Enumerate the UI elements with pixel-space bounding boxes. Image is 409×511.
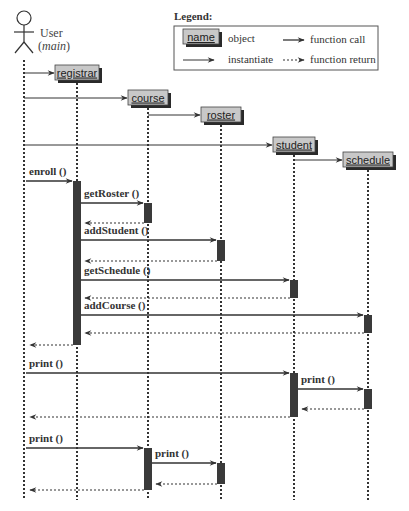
object-student: student xyxy=(273,137,318,155)
actor-name: User xyxy=(40,26,63,40)
objects: registrarcourserosterstudentschedule xyxy=(55,65,396,170)
message-label: print () xyxy=(29,432,63,445)
activation-schedule xyxy=(364,315,372,333)
object-course: course xyxy=(128,90,171,108)
stick-figure-icon xyxy=(14,11,34,53)
activation-roster xyxy=(217,240,225,261)
message-label: print () xyxy=(301,373,335,386)
actor-subtitle: (main) xyxy=(38,39,70,53)
activation-roster xyxy=(217,463,225,484)
activation-registrar xyxy=(73,181,81,345)
object-registrar: registrar xyxy=(55,65,102,83)
activation-course xyxy=(144,448,152,490)
message-label: print () xyxy=(155,447,189,460)
legend: Legend: name object function call instan… xyxy=(174,10,378,70)
actor-subtitle-text: main xyxy=(42,39,66,53)
object-label: course xyxy=(131,92,164,104)
object-label: student xyxy=(276,139,312,151)
sequence-diagram: User (main) Legend: name object function… xyxy=(0,0,409,511)
object-roster: roster xyxy=(201,107,244,125)
message-label: getSchedule () xyxy=(84,264,151,277)
object-label: registrar xyxy=(57,67,98,79)
activation-course xyxy=(144,203,152,223)
legend-return-label: function return xyxy=(310,53,376,65)
activation-student xyxy=(290,280,298,298)
object-label: roster xyxy=(207,109,235,121)
user-actor: User (main) xyxy=(14,11,70,53)
legend-title: Legend: xyxy=(174,10,213,22)
activation-schedule xyxy=(364,389,372,409)
object-schedule: schedule xyxy=(343,152,396,170)
message-label: addStudent () xyxy=(84,224,149,237)
message-label: addCourse () xyxy=(84,299,146,312)
legend-object-sample-label: name xyxy=(187,31,215,43)
legend-instantiate-label: instantiate xyxy=(228,53,273,65)
message-label: getRoster () xyxy=(84,187,139,200)
message-label: print () xyxy=(29,357,63,370)
activation-student xyxy=(290,373,298,417)
object-label: schedule xyxy=(346,154,390,166)
legend-call-label: function call xyxy=(310,33,365,45)
legend-object-label: object xyxy=(228,32,255,44)
message-label: enroll () xyxy=(29,165,67,178)
